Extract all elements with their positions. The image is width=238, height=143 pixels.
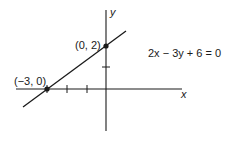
- y-axis-label: y: [109, 6, 117, 18]
- equation-label: 2x − 3y + 6 = 0: [148, 47, 221, 59]
- graph-canvas: y x (0, 2) (−3, 0) 2x − 3y + 6 = 0: [0, 0, 238, 143]
- point-neg3-0-marker: [44, 86, 49, 91]
- point-0-2-label: (0, 2): [75, 39, 101, 51]
- x-axis-label: x: [180, 88, 187, 100]
- point-0-2-marker: [103, 43, 108, 48]
- point-neg3-0-label: (−3, 0): [14, 75, 46, 87]
